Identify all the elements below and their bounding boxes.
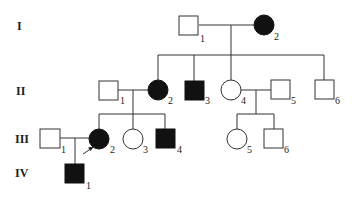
generation-label-III: III — [15, 132, 29, 146]
id-label: 3 — [205, 95, 210, 106]
individual-I-1-male — [179, 16, 198, 35]
individual-II-1-male — [99, 81, 118, 100]
id-label: 1 — [86, 180, 91, 191]
id-label: 5 — [247, 144, 252, 155]
id-label: 5 — [291, 95, 296, 106]
individual-II-2-female-affected — [148, 80, 168, 100]
id-label: 1 — [120, 95, 125, 106]
id-label: 6 — [335, 95, 340, 106]
id-label: 1 — [200, 33, 205, 44]
proband-arrow-icon — [83, 147, 94, 155]
generation-label-I: I — [17, 19, 22, 33]
individual-II-3-male-affected — [185, 81, 204, 100]
individual-III-6-male — [264, 129, 283, 148]
id-label: 4 — [177, 144, 182, 155]
generation-label-IV: IV — [15, 166, 29, 180]
individual-III-3-female — [123, 129, 143, 149]
individual-II-4-female — [221, 80, 241, 100]
generation-label-II: II — [16, 84, 26, 98]
id-label: 2 — [274, 31, 279, 42]
id-label: 3 — [143, 144, 148, 155]
individual-III-2-female-affected-proband — [89, 129, 109, 149]
pedigree-chart: I II III IV 1 2 1 2 3 4 5 6 1 2 3 4 5 6 — [0, 0, 356, 197]
individual-III-1-male — [40, 129, 60, 148]
id-label: 1 — [61, 144, 66, 155]
individual-III-5-female — [227, 129, 247, 149]
id-label: 4 — [241, 95, 246, 106]
id-label: 6 — [284, 144, 289, 155]
individual-II-6-male — [315, 80, 334, 99]
id-label: 2 — [110, 144, 115, 155]
individual-I-2-female-affected — [254, 15, 274, 35]
individual-II-5-male — [271, 80, 290, 99]
individual-III-4-male-affected — [156, 129, 175, 148]
id-label: 2 — [168, 95, 173, 106]
individual-IV-1-male-affected — [65, 164, 84, 183]
